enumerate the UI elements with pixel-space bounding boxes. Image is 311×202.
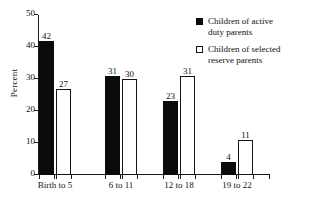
y-tick-label: 40 [26, 40, 35, 51]
x-tick-mark [137, 175, 138, 179]
legend-swatch-hollow-icon [196, 46, 203, 53]
legend-label-active-duty: Children of active duty parents [208, 16, 273, 37]
x-tick-mark [120, 175, 121, 179]
legend-label-active-duty-line1: Children of active [208, 16, 273, 26]
legend-item-selected-reserve: Children of selected reserve parents [196, 44, 308, 65]
bar-value-label: 4 [226, 152, 231, 162]
legend-swatch-filled-icon [196, 18, 203, 25]
x-category-label: Birth to 5 [38, 180, 73, 191]
x-category-label: 6 to 11 [109, 180, 134, 191]
x-tick-mark [163, 175, 164, 179]
y-tick: 50 [38, 14, 42, 15]
x-tick-mark [238, 175, 239, 179]
bar-selected-reserve: 31 [180, 76, 195, 175]
bar-value-label: 31 [183, 66, 192, 76]
x-tick-mark [54, 175, 55, 179]
x-tick-mark [236, 175, 237, 179]
y-tick-label: 10 [26, 136, 35, 147]
y-tick-label: 0 [31, 168, 36, 179]
x-tick-mark [105, 175, 106, 179]
legend-item-active-duty: Children of active duty parents [196, 16, 308, 37]
bar-selected-reserve: 11 [238, 140, 253, 175]
bar-active-duty: 23 [163, 101, 178, 175]
bar-value-label: 42 [42, 31, 51, 41]
bar-active-duty: 42 [39, 41, 54, 175]
chart-legend: Children of active duty parents Children… [196, 16, 308, 72]
y-tick-label: 50 [26, 8, 35, 19]
bar-chart-figure: Percent 01020304050 422731302331411 Birt… [0, 0, 311, 202]
legend-label-active-duty-line2: duty parents [208, 27, 252, 37]
x-tick-mark [180, 175, 181, 179]
x-tick-mark [269, 175, 270, 179]
x-tick-mark [122, 175, 123, 179]
x-tick-mark [39, 175, 40, 179]
y-axis-title: Percent [9, 53, 19, 113]
bar-active-duty: 31 [105, 76, 120, 175]
bar-value-label: 30 [125, 69, 134, 79]
x-tick-mark [195, 175, 196, 179]
y-tick-label: 30 [26, 72, 35, 83]
x-tick-mark [221, 175, 222, 179]
bar-value-label: 11 [241, 130, 250, 140]
bar-value-label: 23 [166, 91, 175, 101]
x-tick-mark [56, 175, 57, 179]
legend-label-selected-reserve-line1: Children of selected [208, 44, 280, 54]
y-tick-label: 20 [26, 104, 35, 115]
x-tick-mark [71, 175, 72, 179]
legend-label-selected-reserve: Children of selected reserve parents [208, 44, 280, 65]
x-category-label: 12 to 18 [164, 180, 194, 191]
bar-value-label: 31 [108, 66, 117, 76]
bar-selected-reserve: 27 [56, 89, 71, 175]
bar-value-label: 27 [59, 79, 68, 89]
x-category-label: 19 to 22 [222, 180, 252, 191]
bar-selected-reserve: 30 [122, 79, 137, 175]
x-tick-mark [178, 175, 179, 179]
x-tick-mark [253, 175, 254, 179]
bar-active-duty: 4 [221, 162, 236, 175]
legend-label-selected-reserve-line2: reserve parents [208, 55, 262, 65]
